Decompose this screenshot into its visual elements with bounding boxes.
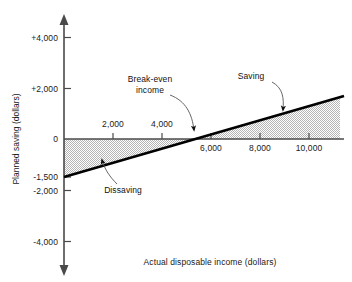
ytick-label-neg4000: -4,000 <box>8 237 58 247</box>
annotation-break-even-line1: Break-even <box>112 74 188 85</box>
xtick-label-8000: 8,000 <box>235 143 285 153</box>
annotation-saving: Saving <box>228 71 274 82</box>
xtick-label-2000: 2,000 <box>88 119 138 129</box>
xtick-label-10000: 10,000 <box>284 143 334 153</box>
annotation-break-even-line2: income <box>112 85 188 96</box>
x-axis-title: Actual disposable income (dollars) <box>130 257 290 267</box>
chart-figure: +4,000 +2,000 0 -1,500 -2,000 -4,000 2,0… <box>0 0 352 282</box>
ytick-label-4000: +4,000 <box>8 33 58 43</box>
annotation-break-even: Break-even income <box>112 74 188 96</box>
y-axis-title-wrapper: Planned saving (dollars) <box>5 79 23 199</box>
xtick-label-4000: 4,000 <box>137 119 187 129</box>
xtick-label-6000: 6,000 <box>186 143 236 153</box>
annotation-dissaving: Dissaving <box>96 185 150 196</box>
y-axis-title: Planned saving (dollars) <box>11 93 21 184</box>
saving-callout-arrow <box>272 82 283 110</box>
